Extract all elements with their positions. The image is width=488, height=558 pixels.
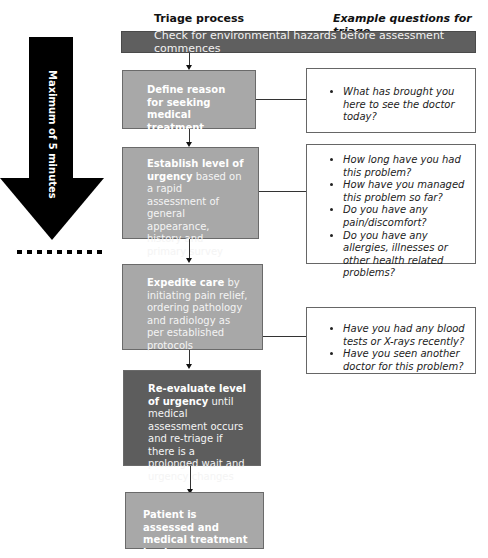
question-item: Have you seen another doctor for this pr… xyxy=(343,348,475,373)
step-text: until medical assessment occurs and re-t… xyxy=(148,396,245,482)
step-patient-assessed: Patient is assessed and medical treatmen… xyxy=(125,492,264,549)
step-define-reason: Define reason for seeking medical treatm… xyxy=(122,70,256,129)
step-text: based on a rapid assessment of general a… xyxy=(147,171,242,257)
step-title: Patient is assessed and medical treatmen… xyxy=(143,509,248,558)
question-item: Do you have any pain/discomfort? xyxy=(343,204,475,229)
triage-process-heading: Triage process xyxy=(154,12,244,25)
question-item: Have you had any blood tests or X-rays r… xyxy=(343,323,475,348)
step-text: by initiating pain relief, ordering path… xyxy=(147,277,248,351)
timer-label: Maximum of 5 minutes xyxy=(47,70,58,199)
environmental-hazards-bar: Check for environmental hazards before a… xyxy=(121,31,476,53)
step-expedite-care: Expedite care by initiating pain relief,… xyxy=(122,264,263,350)
dotted-line xyxy=(17,250,102,254)
environmental-hazards-text: Check for environmental hazards before a… xyxy=(154,29,475,55)
question-item: What has brought you here to see the doc… xyxy=(343,86,475,124)
step-title: Define reason for seeking medical treatm… xyxy=(147,84,225,133)
question-item: Do you have any allergies, illnesses or … xyxy=(343,230,475,280)
connector xyxy=(256,99,306,100)
question-item: How long have you had this problem? xyxy=(343,154,475,179)
step-establish-urgency: Establish level of urgency based on a ra… xyxy=(122,147,259,239)
questions-box-expedite: Have you had any blood tests or X-rays r… xyxy=(306,307,476,374)
step-re-evaluate: Re-evaluate level of urgency until medic… xyxy=(123,370,261,466)
questions-box-reason: What has brought you here to see the doc… xyxy=(306,68,476,133)
connector xyxy=(259,191,306,192)
question-item: How have you managed this problem so far… xyxy=(343,179,475,204)
questions-box-urgency: How long have you had this problem? How … xyxy=(306,144,476,264)
step-title: Expedite care xyxy=(147,277,224,288)
arrow-down-icon xyxy=(186,364,192,369)
connector xyxy=(263,336,306,337)
arrow-down-icon xyxy=(186,258,192,263)
